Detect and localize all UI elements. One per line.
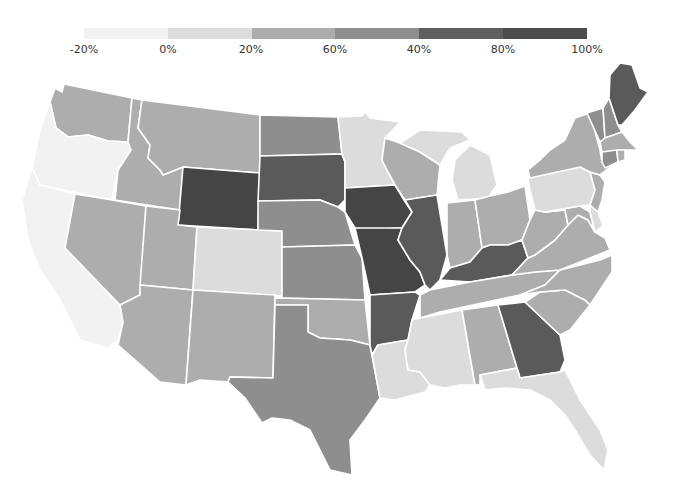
state-RI[interactable] bbox=[617, 150, 625, 162]
state-MT[interactable] bbox=[138, 100, 260, 175]
state-WY[interactable] bbox=[178, 167, 260, 230]
state-NM[interactable] bbox=[186, 290, 275, 385]
state-KS[interactable] bbox=[282, 245, 365, 300]
state-CT[interactable] bbox=[602, 150, 618, 168]
state-ME[interactable] bbox=[609, 63, 648, 125]
state-CO[interactable] bbox=[193, 227, 282, 296]
state-FL[interactable] bbox=[480, 368, 608, 470]
state-SD[interactable] bbox=[258, 154, 345, 207]
state-ND[interactable] bbox=[260, 115, 342, 156]
us-choropleth-map bbox=[0, 0, 680, 504]
state-AZ[interactable] bbox=[118, 285, 193, 385]
